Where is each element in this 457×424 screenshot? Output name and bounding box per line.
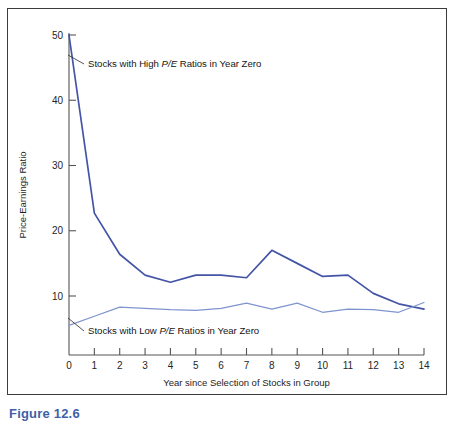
x-tick-label: 2 <box>117 360 123 371</box>
figure-caption: Figure 12.6 <box>9 406 80 424</box>
series-layer <box>69 35 424 325</box>
y-tick-label: 30 <box>52 160 64 171</box>
axis-titles-layer: Year since Selection of Stocks in GroupP… <box>17 151 330 388</box>
chart-canvas: 102030405001234567891011121314 Stocks wi… <box>0 0 457 424</box>
high-pe-annotation-text-italic: P/E <box>162 58 178 69</box>
y-tick-label: 40 <box>52 95 64 106</box>
x-tick-label: 10 <box>317 360 329 371</box>
low-pe-annotation-text-after: Ratios in Year Zero <box>175 325 259 336</box>
x-tick-label: 6 <box>218 360 224 371</box>
y-tick-label: 20 <box>52 225 64 236</box>
low-pe-annotation-text-italic: P/E <box>159 325 175 336</box>
high-pe-annotation: Stocks with High P/E Ratios in Year Zero <box>88 58 261 69</box>
x-tick-label: 0 <box>66 360 72 371</box>
high-pe-annotation-text-after: Ratios in Year Zero <box>177 58 261 69</box>
axes-layer: 102030405001234567891011121314 <box>52 30 430 371</box>
x-tick-label: 7 <box>244 360 250 371</box>
y-tick-label: 10 <box>52 291 64 302</box>
high-pe-annotation-text-before: Stocks with High <box>88 58 162 69</box>
x-tick-label: 1 <box>92 360 98 371</box>
x-tick-label: 13 <box>393 360 405 371</box>
figure-container: 102030405001234567891011121314 Stocks wi… <box>0 0 457 424</box>
annotations-layer: Stocks with High P/E Ratios in Year Zero… <box>68 55 261 336</box>
x-axis-title: Year since Selection of Stocks in Group <box>163 377 330 388</box>
series-line-high-pe <box>69 35 424 309</box>
x-tick-label: 14 <box>418 360 430 371</box>
low-pe-annotation: Stocks with Low P/E Ratios in Year Zero <box>88 325 259 336</box>
y-tick-label: 50 <box>52 30 64 41</box>
x-tick-label: 4 <box>168 360 174 371</box>
x-tick-label: 12 <box>368 360 380 371</box>
y-axis-title: Price-Earnings Ratio <box>17 151 28 238</box>
x-tick-label: 9 <box>294 360 300 371</box>
x-tick-label: 5 <box>193 360 199 371</box>
x-tick-label: 11 <box>343 360 354 371</box>
high-pe-annotation-leader-line <box>68 55 84 64</box>
x-tick-label: 8 <box>269 360 275 371</box>
low-pe-annotation-text-before: Stocks with Low <box>88 325 159 336</box>
series-line-low-pe <box>69 303 424 326</box>
x-tick-label: 3 <box>142 360 148 371</box>
